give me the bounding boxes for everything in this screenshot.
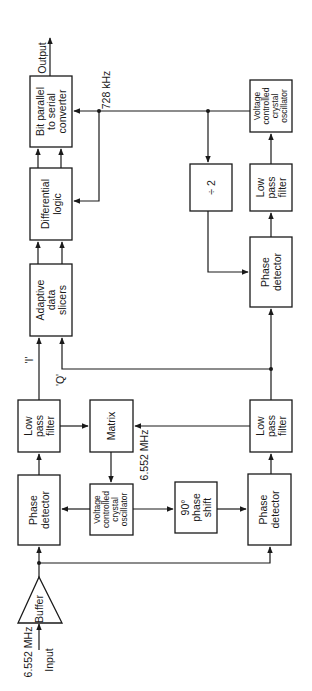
input-label: Input <box>43 648 55 671</box>
block-lpf-clk: Low pass filter <box>250 164 292 211</box>
svg-text:detector: detector <box>39 491 51 529</box>
block-differential-logic: Differential logic <box>30 168 72 240</box>
block-vcxo-main: Voltage controlled crystal oscillator <box>90 484 133 535</box>
svg-text:logic: logic <box>51 193 63 215</box>
block-phase-shift: 90° phase shift <box>175 482 217 533</box>
svg-text:Phase: Phase <box>259 257 271 287</box>
q-channel-label: 'Q' <box>54 374 66 386</box>
block-phase-detector-clk: Phase detector <box>250 237 292 307</box>
svg-text:÷ 2: ÷ 2 <box>205 180 217 195</box>
svg-text:detector: detector <box>269 490 281 528</box>
svg-text:Buffer: Buffer <box>33 595 45 623</box>
svg-text:Phase: Phase <box>27 495 39 525</box>
svg-text:filter: filter <box>44 416 56 436</box>
output-label: Output <box>36 42 48 74</box>
svg-text:shift: shift <box>201 498 213 517</box>
block-phase-detector-q: Phase detector <box>248 474 291 545</box>
svg-text:oscillator: oscillator <box>279 89 289 123</box>
block-lpf-i: Low pass filter <box>18 400 60 452</box>
vco-freq-label: 6.552 MHz <box>138 430 150 481</box>
svg-text:slicers: slicers <box>56 285 68 315</box>
block-vcxo-clk: Voltage controlled crystal oscillator <box>250 80 292 132</box>
clock-freq-label: 728 kHz <box>100 71 112 110</box>
svg-text:filter: filter <box>276 416 288 436</box>
svg-text:Matrix: Matrix <box>105 411 117 440</box>
svg-text:filter: filter <box>276 177 288 197</box>
svg-text:detector: detector <box>271 253 283 291</box>
input-freq-label: 6.552 MHz <box>22 627 34 678</box>
block-diagram: Bit parallel to serial converter Differe… <box>0 0 312 691</box>
svg-text:Phase: Phase <box>257 494 269 524</box>
block-bit-converter: Bit parallel to serial converter <box>30 76 72 147</box>
block-phase-detector-i: Phase detector <box>18 475 60 545</box>
svg-text:converter: converter <box>56 89 68 133</box>
buffer-amplifier: Buffer <box>18 577 62 623</box>
i-channel-label: 'I' <box>23 357 35 364</box>
block-divide-by-2: ÷ 2 <box>190 164 232 211</box>
block-matrix: Matrix <box>90 400 133 452</box>
svg-text:Differential: Differential <box>39 179 51 229</box>
svg-text:oscillator: oscillator <box>119 493 129 527</box>
block-lpf-q: Low pass filter <box>250 400 292 452</box>
block-adaptive-slicers: Adaptive data slicers <box>30 264 72 336</box>
